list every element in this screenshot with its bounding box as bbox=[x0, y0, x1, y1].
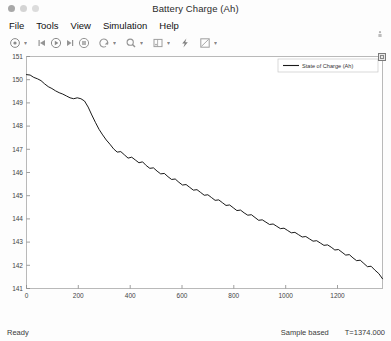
trigger-icon[interactable] bbox=[178, 36, 192, 50]
y-tick-label: 146 bbox=[12, 169, 23, 176]
legend[interactable]: State of Charge (Ah) bbox=[278, 59, 378, 72]
scope-window: Battery Charge (Ah) File Tools View Simu… bbox=[0, 0, 391, 341]
restore-view-icon[interactable] bbox=[97, 36, 111, 50]
cursor-measurements-icon[interactable] bbox=[151, 36, 165, 50]
style-caret-icon[interactable]: ▾ bbox=[212, 36, 219, 50]
y-tick-label: 149 bbox=[12, 99, 23, 106]
y-tick-label: 148 bbox=[12, 122, 23, 129]
menu-simulation[interactable]: Simulation bbox=[103, 20, 147, 31]
title-bar: Battery Charge (Ah) bbox=[0, 0, 391, 17]
cursor-measurements-caret-icon[interactable]: ▾ bbox=[165, 36, 172, 50]
plot-frame bbox=[27, 57, 383, 289]
status-simulation-time: T=1374.000 bbox=[345, 328, 385, 337]
y-tick-label: 151 bbox=[12, 53, 23, 60]
y-tick-label: 143 bbox=[12, 238, 23, 245]
x-tick-label: 200 bbox=[73, 292, 84, 299]
restore-view-caret-icon[interactable]: ▾ bbox=[111, 36, 118, 50]
y-tick-label: 145 bbox=[12, 192, 23, 199]
x-tick-label: 0 bbox=[25, 292, 29, 299]
toolbar: ▾ bbox=[0, 33, 391, 52]
stop-icon[interactable] bbox=[77, 36, 91, 50]
legend-label-state-of-charge: State of Charge (Ah) bbox=[302, 63, 353, 69]
y-tick-label: 144 bbox=[12, 215, 23, 222]
y-tick-label: 142 bbox=[12, 262, 23, 269]
maximize-axes-button[interactable] bbox=[378, 53, 386, 61]
print-icon[interactable] bbox=[8, 36, 22, 50]
x-tick-label: 1000 bbox=[278, 292, 293, 299]
y-tick-label: 147 bbox=[12, 146, 23, 153]
print-caret-icon[interactable]: ▾ bbox=[22, 36, 29, 50]
status-bar: Ready Sample based T=1374.000 bbox=[0, 323, 391, 341]
window-title: Battery Charge (Ah) bbox=[0, 3, 391, 14]
style-icon[interactable] bbox=[198, 36, 212, 50]
x-tick-label: 600 bbox=[177, 292, 188, 299]
rewind-icon[interactable] bbox=[35, 36, 49, 50]
plot-area[interactable]: 151 150 149 148 147 146 145 bbox=[2, 53, 387, 323]
zoom-caret-icon[interactable]: ▾ bbox=[138, 36, 145, 50]
scope-plot[interactable]: 151 150 149 148 147 146 145 bbox=[2, 53, 387, 303]
x-tick-label: 400 bbox=[125, 292, 136, 299]
menu-view[interactable]: View bbox=[71, 20, 91, 31]
zoom-icon[interactable] bbox=[124, 36, 138, 50]
menu-bar: File Tools View Simulation Help bbox=[0, 17, 391, 33]
x-tick-label: 800 bbox=[228, 292, 239, 299]
status-ready-label: Ready bbox=[7, 328, 29, 337]
x-tick-label: 1200 bbox=[330, 292, 345, 299]
run-icon[interactable] bbox=[49, 36, 63, 50]
y-tick-label: 141 bbox=[12, 285, 23, 292]
menu-help[interactable]: Help bbox=[159, 20, 179, 31]
y-tick-label: 150 bbox=[12, 76, 23, 83]
step-forward-icon[interactable] bbox=[63, 36, 77, 50]
toolbar-overflow-icon[interactable] bbox=[377, 24, 383, 31]
menu-tools[interactable]: Tools bbox=[36, 20, 58, 31]
menu-file[interactable]: File bbox=[9, 20, 24, 31]
status-sample-mode: Sample based bbox=[281, 328, 329, 337]
